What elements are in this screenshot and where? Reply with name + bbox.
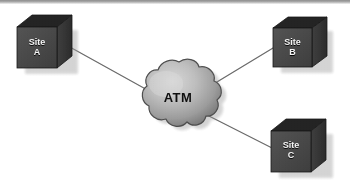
atm-cloud[interactable] [142, 59, 226, 130]
atm-cloud-highlight [149, 71, 183, 97]
site-b-front-face [273, 28, 312, 67]
node-site-b[interactable] [273, 17, 333, 73]
link-site-a-atm [68, 46, 151, 92]
site-c-front-face [271, 131, 311, 172]
node-site-a[interactable] [17, 15, 78, 74]
node-site-c[interactable] [271, 119, 333, 178]
diagram-canvas [0, 0, 350, 194]
atm-network-diagram: Site A Site B Site C ATM [0, 0, 350, 194]
site-a-front-face [17, 27, 57, 68]
